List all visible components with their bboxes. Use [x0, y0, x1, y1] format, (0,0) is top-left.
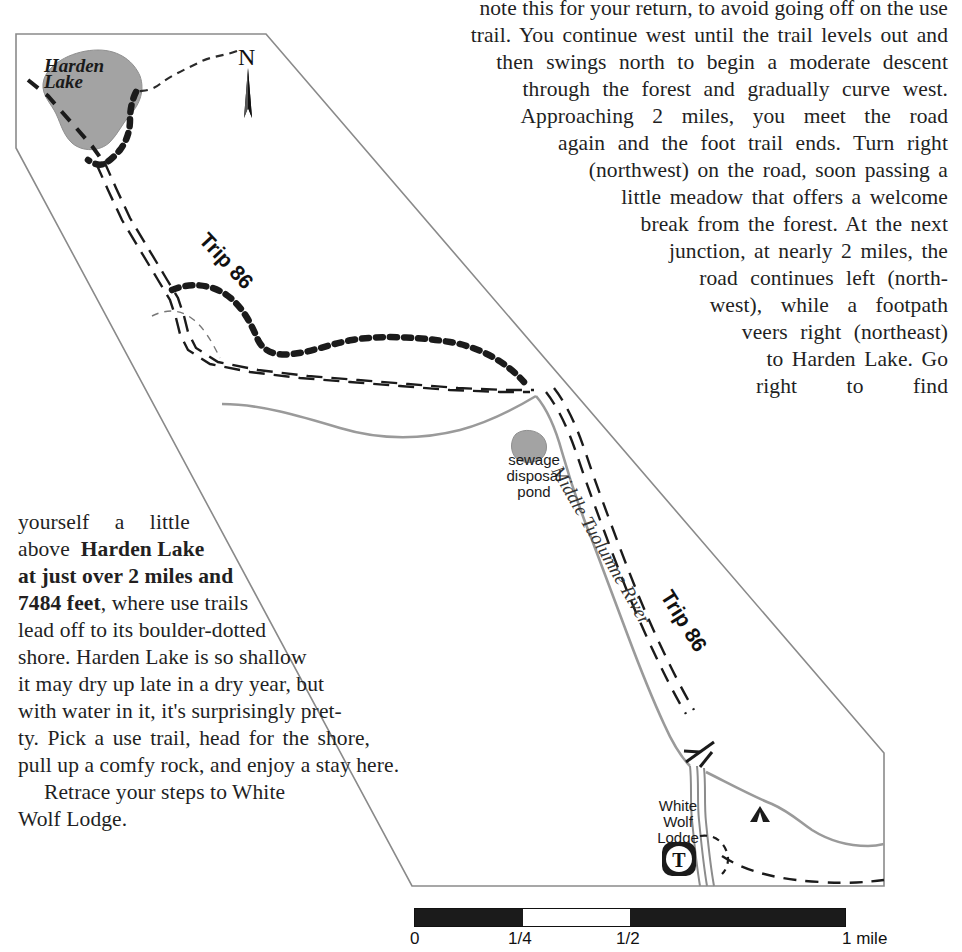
sewage-pond-label: sewage disposal pond: [496, 452, 572, 500]
lodge-label-line3: Lodge: [648, 830, 708, 846]
body-line-l2: at just over 2 miles and: [18, 566, 233, 587]
lodge-label-line2: Wolf: [648, 814, 708, 830]
scale-tick-1: 1/4: [508, 929, 532, 949]
scale-seg-2: [630, 909, 845, 926]
scale-tick-2: 1/2: [616, 929, 640, 949]
body-line-l10: Retrace your steps to White: [44, 782, 285, 803]
body-line-l8: ty. Pick a use trail, head for the shore…: [18, 728, 370, 749]
body-line-l3-tail: , where use trails: [101, 591, 248, 615]
trip-86-road-lower-b: [554, 388, 694, 710]
body-line-r8: junction, at nearly 2 miles, the: [0, 241, 948, 262]
body-line-r7: break from the forest. At the next: [0, 214, 948, 235]
scale-bar: [414, 908, 846, 927]
dashed-trail-bottom: [722, 856, 884, 883]
body-line-l1: above Harden Lake: [18, 539, 204, 560]
pond-label-line1: sewage: [496, 452, 572, 468]
body-line-l0: yourself a little: [18, 512, 190, 533]
scale-tick-0: 0: [410, 929, 419, 949]
body-line-l4: lead off to its boulder-dotted: [18, 620, 266, 641]
body-line-l9: pull up a comfy rock, and enjoy a stay h…: [18, 755, 399, 776]
road-grey-east: [706, 772, 884, 846]
pond-label-line3: pond: [496, 484, 572, 500]
body-line-l5: shore. Harden Lake is so shallow: [18, 647, 307, 668]
body-line-r9: road continues left (north-: [0, 268, 948, 289]
scale-seg-0: [415, 909, 523, 926]
bridge-crossing-icon: [684, 742, 714, 767]
body-line-r0: trail. You continue west until the trail…: [0, 25, 948, 46]
body-line-r1: then swings north to begin a moderate de…: [0, 52, 948, 73]
trailhead-marker: T: [662, 842, 696, 876]
body-line-r3: Approaching 2 miles, you meet the road: [0, 106, 948, 127]
body-line-l7: with water in it, it's surprisingly pret…: [18, 701, 342, 722]
tent-icon: [750, 806, 770, 822]
body-line-r11: veers right (northeast): [0, 322, 948, 343]
body-line-r10: west), while a footpath: [0, 295, 948, 316]
body-line-r13: right to find: [0, 376, 948, 397]
body-line-r5: (northwest) on the road, soon passing a: [0, 160, 948, 181]
trip-86-label-lower: Trip 86: [656, 586, 712, 656]
white-wolf-lodge-label: White Wolf Lodge: [648, 798, 708, 846]
guidebook-page: T Harden Lake N Trip 86 Trip 86 Middle T…: [0, 0, 962, 952]
svg-text:T: T: [672, 849, 686, 871]
body-line-r12: to Harden Lake. Go: [0, 349, 948, 370]
body-line-r6: little meadow that offers a welcome: [0, 187, 948, 208]
bold-harden-lake: Harden Lake: [81, 537, 205, 561]
lodge-label-line1: White: [648, 798, 708, 814]
body-line-top: note this for your return, to avoid goin…: [0, 0, 948, 19]
pond-label-line2: disposal: [496, 468, 572, 484]
road-grey-west: [222, 396, 536, 437]
body-line-r2: through the forest and gradually curve w…: [0, 79, 948, 100]
scale-tick-3: 1 mile: [842, 929, 887, 949]
body-line-l6: it may dry up late in a dry year, but: [18, 674, 324, 695]
bold-7484-feet: 7484 feet: [18, 591, 101, 615]
body-line-l3: 7484 feet, where use trails: [18, 593, 248, 614]
body-line-r4: again and the foot trail ends. Turn righ…: [0, 133, 948, 154]
body-line-l1-text: above: [18, 537, 81, 561]
scale-seg-1: [523, 909, 631, 926]
body-line-l11: Wolf Lodge.: [18, 809, 127, 830]
